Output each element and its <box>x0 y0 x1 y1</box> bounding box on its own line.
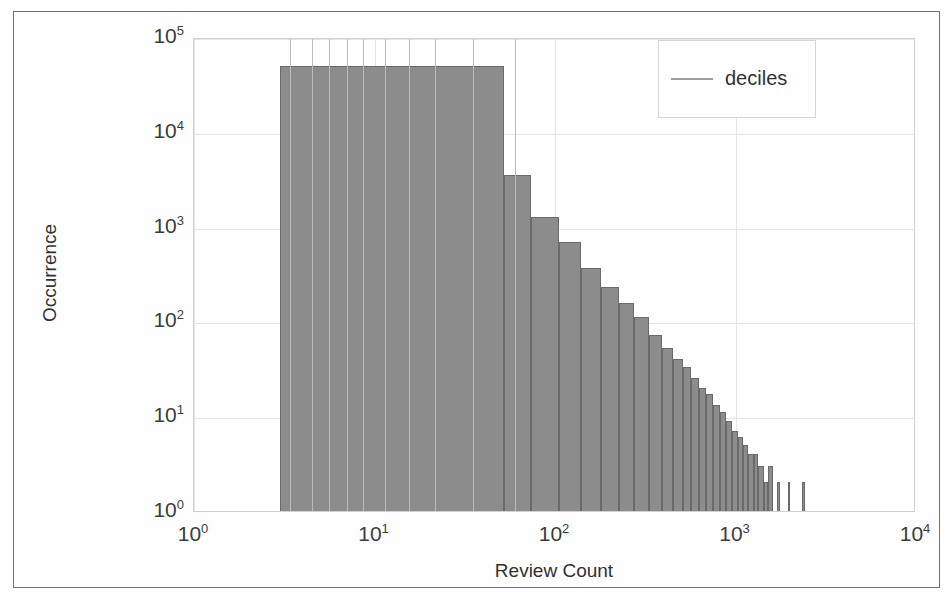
decile-line <box>363 39 364 512</box>
histogram-figure: 100101102103104105 Occurrence 1001011021… <box>0 0 950 599</box>
histogram-bar <box>768 466 773 511</box>
legend-entry-label: deciles <box>725 67 787 90</box>
y-tick-label: 102 <box>153 308 184 332</box>
decile-line <box>290 39 291 512</box>
histogram-bar <box>619 303 635 511</box>
histogram-bar <box>504 175 532 511</box>
decile-line <box>409 39 410 512</box>
x-tick-label: 104 <box>900 522 931 546</box>
legend-box: deciles <box>658 40 816 118</box>
histogram-bar <box>699 388 706 511</box>
x-tick-label: 102 <box>539 522 570 546</box>
decile-line <box>329 39 330 512</box>
y-tick-label: 105 <box>153 24 184 48</box>
histogram-bar <box>662 348 673 511</box>
histogram-bar <box>559 242 582 511</box>
histogram-bar <box>634 317 648 511</box>
histogram-bar <box>649 335 662 511</box>
x-axis-label: Review Count <box>193 560 915 582</box>
legend-line-marker-icon <box>671 78 713 80</box>
histogram-bar <box>581 268 601 511</box>
y-tick-label: 103 <box>153 214 184 238</box>
histogram-bar <box>802 482 804 511</box>
y-tick-label: 101 <box>153 403 184 427</box>
histogram-bar <box>777 482 780 511</box>
y-tick-label: 104 <box>153 119 184 143</box>
decile-line <box>312 39 313 512</box>
y-axis-ticks: 100101102103104105 <box>100 0 184 599</box>
decile-line <box>515 39 516 512</box>
screenshot-page: 100101102103104105 Occurrence 1001011021… <box>0 0 950 599</box>
decile-line <box>347 39 348 512</box>
y-tick-label: 100 <box>153 498 184 522</box>
x-tick-label: 101 <box>358 522 389 546</box>
y-axis-label: Occurrence <box>39 163 61 383</box>
decile-line <box>473 39 474 512</box>
histogram-bar <box>788 482 790 511</box>
histogram-bar <box>601 287 618 511</box>
decile-line <box>385 39 386 512</box>
legend-entry-deciles: deciles <box>659 67 815 90</box>
x-tick-label: 100 <box>178 522 209 546</box>
histogram-bar <box>531 217 558 511</box>
x-tick-label: 103 <box>719 522 750 546</box>
histogram-bar <box>683 367 692 511</box>
decile-line <box>435 39 436 512</box>
histogram-bar <box>713 405 720 511</box>
histogram-bar <box>691 378 699 511</box>
gridline-vertical <box>194 39 195 511</box>
histogram-bar <box>673 359 683 511</box>
histogram-bar <box>280 66 504 511</box>
x-axis-ticks: 100101102103104 <box>0 522 950 562</box>
